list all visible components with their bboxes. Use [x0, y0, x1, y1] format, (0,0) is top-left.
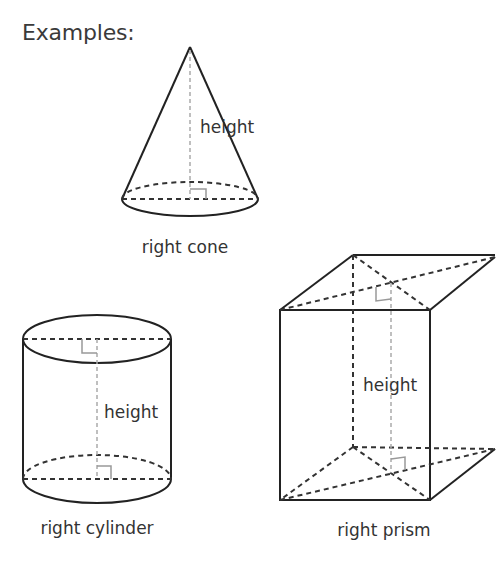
right-cylinder-figure: height right cylinder: [23, 315, 171, 538]
prism-caption: right prism: [337, 520, 430, 540]
prism-height-label: height: [363, 375, 418, 395]
right-cone-figure: height right cone: [122, 47, 258, 257]
cylinder-height-label: height: [104, 402, 159, 422]
right-prism-figure: height right prism: [280, 255, 495, 540]
solids-diagram: height right cone height right cylinder: [0, 0, 497, 572]
cone-caption: right cone: [142, 237, 228, 257]
cone-height-label: height: [200, 117, 255, 137]
cylinder-caption: right cylinder: [40, 518, 153, 538]
